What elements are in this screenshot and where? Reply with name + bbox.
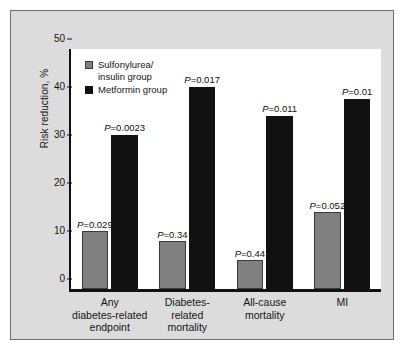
bar-sulfonylurea[interactable]: P=0.44 (237, 260, 264, 289)
bar-metformin[interactable]: P=0.017 (189, 87, 216, 289)
bar-metformin[interactable]: P=0.01 (344, 99, 371, 289)
x-axis-label: Diabetes-relatedmortality (165, 296, 210, 334)
figure-container: Risk reduction, % 01020304050 Sulfonylur… (0, 0, 405, 351)
plot-area: 01020304050 Sulfonylurea/ insulin group … (69, 49, 381, 292)
bar-sulfonylurea[interactable]: P=0.34 (159, 241, 186, 289)
bar-group: P=0.34P=0.017Diabetes-relatedmortality (149, 49, 227, 289)
bar-metformin[interactable]: P=0.011 (266, 116, 293, 289)
x-axis-label: All-causemortality (243, 296, 286, 321)
y-axis-tick: 10 (54, 225, 71, 236)
p-value-annotation: P=0.34 (157, 229, 187, 240)
y-axis-tick: 50 (54, 33, 71, 44)
chart-panel: Risk reduction, % 01020304050 Sulfonylur… (10, 10, 394, 340)
y-axis-tick: 20 (54, 177, 71, 188)
y-axis-tick: 0 (59, 273, 71, 284)
p-value-annotation: P=0.029 (77, 219, 113, 230)
bar-group: P=0.052P=0.01MI (304, 49, 382, 289)
bar-metformin[interactable]: P=0.0023 (111, 135, 138, 289)
plot-inner: 01020304050 Sulfonylurea/ insulin group … (71, 49, 381, 289)
p-value-annotation: P=0.01 (342, 86, 372, 97)
p-value-annotation: P=0.44 (235, 248, 265, 259)
y-axis-tick: 30 (54, 129, 71, 140)
bar-sulfonylurea[interactable]: P=0.029 (82, 231, 109, 289)
bar-group: P=0.029P=0.0023Anydiabetes-relatedendpoi… (71, 49, 149, 289)
p-value-annotation: P=0.0023 (104, 122, 145, 133)
bar-sulfonylurea[interactable]: P=0.052 (314, 212, 341, 289)
p-value-annotation: P=0.052 (310, 200, 346, 211)
x-axis-label: Anydiabetes-relatedendpoint (72, 296, 147, 334)
p-value-annotation: P=0.011 (262, 103, 297, 114)
y-axis-tick: 40 (54, 81, 71, 92)
y-axis-label: Risk reduction, % (39, 44, 50, 174)
bar-group: P=0.44P=0.011All-causemortality (226, 49, 304, 289)
x-axis-label: MI (336, 296, 348, 309)
p-value-annotation: P=0.017 (184, 74, 220, 85)
